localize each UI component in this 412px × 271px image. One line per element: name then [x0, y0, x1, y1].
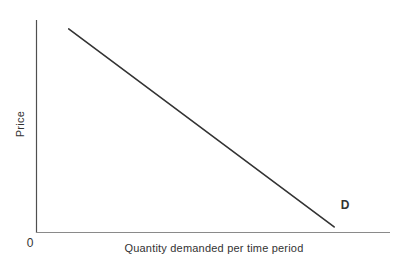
- demand-curve-line: [69, 29, 334, 227]
- demand-curve-figure: Price 0 Quantity demanded per time perio…: [0, 0, 412, 271]
- plot-canvas: [0, 0, 412, 271]
- origin-label: 0: [24, 236, 36, 250]
- curve-label: D: [337, 198, 353, 212]
- y-axis-label: Price: [13, 94, 27, 154]
- x-axis-label: Quantity demanded per time period: [37, 241, 391, 255]
